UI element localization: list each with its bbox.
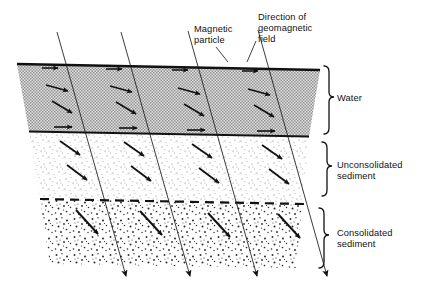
geomagnetic-field-leader bbox=[247, 41, 256, 62]
figure-canvas: Magnetic particle Direction of geomagnet… bbox=[0, 0, 424, 293]
magnetic-particle-leader bbox=[216, 47, 228, 62]
callout-magnetic-particle: Magnetic particle bbox=[194, 24, 233, 46]
brace-consolidated bbox=[319, 208, 329, 268]
layer-water bbox=[17, 64, 320, 136]
callout-geomagnetic-field: Direction of geomagnetic field bbox=[258, 12, 312, 46]
brace-unconsolidated bbox=[322, 142, 332, 196]
brace-water bbox=[324, 66, 334, 134]
layer-label-consolidated-sediment: Consolidated sediment bbox=[337, 228, 392, 250]
layer-label-unconsolidated-sediment: Unconsolidated sediment bbox=[337, 160, 403, 182]
layer-label-water: Water bbox=[337, 93, 362, 104]
